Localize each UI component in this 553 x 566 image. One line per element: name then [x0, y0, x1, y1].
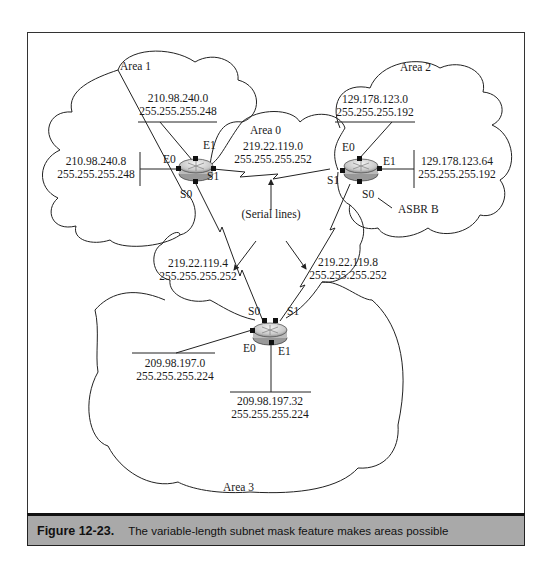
asbr-pointer [378, 198, 392, 208]
router-2[interactable] [340, 156, 382, 184]
serial-r1-r2 [213, 169, 330, 179]
net6-mask: 255.255.255.252 [159, 270, 237, 282]
serial-r2-r3 [280, 184, 350, 321]
r3-e0-label: E0 [243, 342, 256, 354]
r3-s1-label: S1 [287, 305, 299, 317]
arrow-left [234, 241, 256, 270]
net9-mask: 255.255.255.224 [231, 408, 309, 420]
r3-e1-label: E1 [278, 345, 291, 357]
net3-mask: 255.255.255.252 [234, 153, 312, 165]
net4-addr: 129.178.123.0 [342, 93, 408, 105]
link-r3-e0 [176, 330, 252, 353]
area1-cloud [42, 51, 256, 246]
figure-caption: The variable-length subnet mask feature … [128, 525, 448, 537]
serial-lines-label: (Serial lines) [241, 208, 300, 221]
area3-cloud [89, 282, 403, 493]
r2-e1-label: E1 [383, 155, 396, 167]
network-diagram: Area 1 Area 0 Area 2 Area 3 210.98.240.0… [0, 0, 553, 566]
net9-addr: 209.98.197.32 [237, 395, 303, 407]
r1-e0-label: E0 [163, 153, 176, 165]
net6-addr: 219.22.119.4 [168, 257, 228, 269]
net8-mask: 255.255.255.224 [136, 370, 214, 382]
r1-e1-label: E1 [203, 139, 216, 151]
r3-s0-label: S0 [248, 305, 260, 317]
net2-mask: 255.255.255.248 [57, 168, 135, 180]
figure-caption-bar: Figure 12-23. The variable-length subnet… [27, 513, 525, 546]
arrow-right [286, 241, 306, 269]
r2-s1-label: S1 [327, 174, 339, 186]
r2-e0-label: E0 [342, 141, 355, 153]
net7-mask: 255.255.255.252 [309, 269, 387, 281]
area1-label: Area 1 [120, 60, 151, 72]
net8-addr: 209.98.197.0 [145, 357, 206, 369]
area0-label: Area 0 [250, 124, 281, 136]
net3-addr: 219.22.119.0 [243, 140, 303, 152]
net5-addr: 129.178.123.64 [421, 155, 493, 167]
figure-number: Figure 12-23. [37, 524, 114, 538]
net2-addr: 210.98.240.8 [66, 155, 127, 167]
net4-mask: 255.255.255.192 [336, 106, 414, 118]
net1-mask: 255.255.255.248 [139, 105, 217, 117]
asbr-label: ASBR B [398, 203, 439, 215]
r1-s0-label: S0 [180, 188, 192, 200]
net1-addr: 210.98.240.0 [148, 92, 209, 104]
area3-label: Area 3 [223, 481, 254, 493]
router-3[interactable] [250, 318, 287, 345]
r1-s1-label: S1 [207, 170, 219, 182]
net7-addr: 219.22.119.8 [318, 256, 378, 268]
area2-label: Area 2 [400, 61, 431, 73]
r2-s0-label: S0 [362, 188, 374, 200]
net5-mask: 255.255.255.192 [418, 168, 496, 180]
